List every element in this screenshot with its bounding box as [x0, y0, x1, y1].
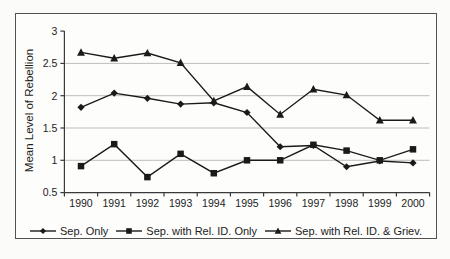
x-tick-label-1991: 1991	[103, 197, 127, 209]
chart-figure: Mean Level of Rebellion 0.511.522.531990…	[15, 13, 437, 239]
y-tick-label: 0.5	[43, 186, 58, 198]
x-tick-label-1994: 1994	[202, 197, 226, 209]
point-sep-with-rel-id-only-1996	[277, 157, 283, 163]
plot-area: 0.511.522.531990199119921993199419951996…	[16, 14, 436, 238]
point-sep-with-rel-id-only-1999	[377, 157, 383, 163]
point-sep-with-rel-id-only-1992	[144, 174, 150, 180]
y-tick-label: 2	[52, 90, 58, 102]
y-tick-label: 2.5	[43, 57, 58, 69]
point-sep-with-rel-id-only-1994	[211, 170, 217, 176]
legend: Sep. OnlySep. with Rel. ID. OnlySep. wit…	[16, 223, 436, 239]
legend-item-sep-only: Sep. Only	[30, 225, 108, 237]
diamond-legend-marker-icon	[30, 226, 56, 236]
x-tick-label-1997: 1997	[302, 197, 326, 209]
point-sep-with-rel-id-only-1997	[310, 142, 316, 148]
point-sep-with-rel-id-griev-1990	[77, 48, 85, 55]
legend-item-sep-with-rel-id-griev: Sep. with Rel. ID. & Griev.	[265, 225, 422, 237]
y-tick-label: 1	[52, 154, 58, 166]
x-tick-label-1990: 1990	[69, 197, 93, 209]
point-sep-with-rel-id-only-1993	[177, 151, 183, 157]
legend-item-sep-with-rel-id-only: Sep. with Rel. ID. Only	[116, 225, 257, 237]
point-sep-with-rel-id-only-1995	[244, 157, 250, 163]
y-tick-label: 3	[52, 25, 58, 37]
point-sep-with-rel-id-griev-1997	[309, 85, 317, 92]
triangle-legend-marker-icon	[265, 226, 291, 236]
legend-marker-glyph	[127, 228, 133, 234]
point-sep-with-rel-id-only-1991	[111, 141, 117, 147]
x-tick-label-1993: 1993	[169, 197, 193, 209]
point-sep-only-1993	[177, 100, 184, 107]
x-tick-label-1995: 1995	[235, 197, 259, 209]
point-sep-with-rel-id-griev-1995	[243, 83, 251, 90]
x-tick-label-1992: 1992	[136, 197, 160, 209]
legend-label: Sep. with Rel. ID. & Griev.	[295, 225, 422, 237]
point-sep-with-rel-id-only-2000	[410, 146, 416, 152]
point-sep-only-1998	[343, 163, 350, 170]
x-tick-label-1999: 1999	[368, 197, 392, 209]
point-sep-with-rel-id-only-1990	[78, 163, 84, 169]
point-sep-with-rel-id-only-1998	[343, 147, 349, 153]
point-sep-only-1990	[77, 104, 84, 111]
x-tick-label-1996: 1996	[269, 197, 293, 209]
legend-label: Sep. Only	[60, 225, 108, 237]
x-tick-label-2000: 2000	[401, 197, 425, 209]
legend-label: Sep. with Rel. ID. Only	[146, 225, 257, 237]
legend-marker-glyph	[40, 228, 46, 234]
x-tick-label-1998: 1998	[335, 197, 359, 209]
y-tick-label: 1.5	[43, 122, 58, 134]
square-legend-marker-icon	[116, 226, 142, 236]
point-sep-with-rel-id-griev-1992	[143, 49, 151, 56]
